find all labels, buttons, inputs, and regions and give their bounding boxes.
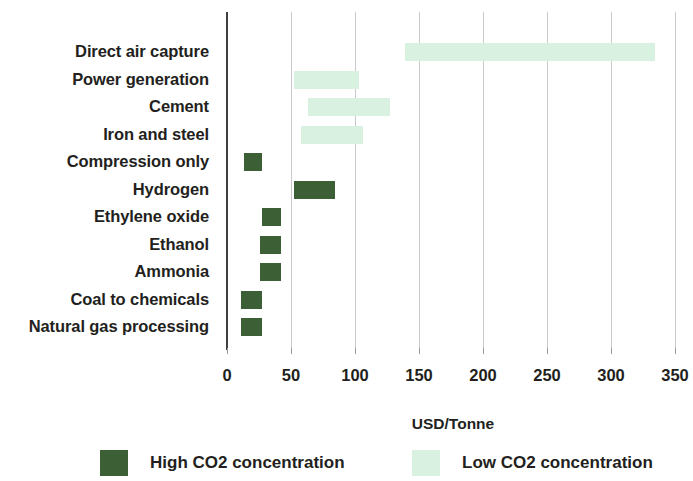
gridline-50 bbox=[291, 12, 292, 348]
bar[interactable] bbox=[244, 153, 262, 171]
category-label: Ethylene oxide bbox=[0, 207, 219, 225]
x-tick-mark-150 bbox=[419, 348, 420, 354]
legend-item-high-concentration[interactable]: High CO2 concentration bbox=[100, 449, 345, 477]
gridline-100 bbox=[355, 12, 356, 348]
chart-legend: High CO2 concentration Low CO2 concentra… bbox=[0, 449, 686, 481]
legend-swatch-low-icon bbox=[412, 450, 440, 476]
x-axis-title: USD/Tonne bbox=[227, 415, 679, 433]
category-label: Natural gas processing bbox=[0, 317, 219, 335]
category-label: Direct air capture bbox=[0, 42, 219, 60]
gridline-250 bbox=[547, 12, 548, 348]
legend-label-low: Low CO2 concentration bbox=[462, 453, 653, 473]
plot-area bbox=[227, 12, 679, 348]
x-tick-mark-0 bbox=[227, 348, 228, 354]
gridline-150 bbox=[419, 12, 420, 348]
x-tick-label-100: 100 bbox=[325, 366, 385, 385]
category-label: Coal to chemicals bbox=[0, 290, 219, 308]
bar[interactable] bbox=[262, 208, 281, 226]
bar[interactable] bbox=[294, 71, 359, 89]
category-label: Ethanol bbox=[0, 235, 219, 253]
bar[interactable] bbox=[308, 98, 390, 116]
bar[interactable] bbox=[260, 263, 280, 281]
x-tick-mark-200 bbox=[483, 348, 484, 354]
category-label: Hydrogen bbox=[0, 180, 219, 198]
gridline-350 bbox=[675, 12, 676, 348]
gridline-200 bbox=[483, 12, 484, 348]
x-tick-label-250: 250 bbox=[517, 366, 577, 385]
bar[interactable] bbox=[241, 318, 261, 336]
x-tick-mark-100 bbox=[355, 348, 356, 354]
x-tick-label-0: 0 bbox=[197, 366, 257, 385]
x-tick-label-300: 300 bbox=[581, 366, 641, 385]
bar[interactable] bbox=[294, 181, 335, 199]
category-label: Ammonia bbox=[0, 262, 219, 280]
bar[interactable] bbox=[405, 43, 655, 61]
category-axis-labels: Direct air capturePower generationCement… bbox=[0, 0, 219, 360]
category-label: Power generation bbox=[0, 70, 219, 88]
x-tick-label-150: 150 bbox=[389, 366, 449, 385]
x-tick-mark-50 bbox=[291, 348, 292, 354]
x-tick-mark-350 bbox=[675, 348, 676, 354]
bar[interactable] bbox=[301, 126, 362, 144]
legend-item-low-concentration[interactable]: Low CO2 concentration bbox=[412, 449, 653, 477]
gridline-300 bbox=[611, 12, 612, 348]
category-label: Iron and steel bbox=[0, 125, 219, 143]
category-label: Compression only bbox=[0, 152, 219, 170]
legend-label-high: High CO2 concentration bbox=[150, 453, 345, 473]
x-tick-label-50: 50 bbox=[261, 366, 321, 385]
bar[interactable] bbox=[260, 236, 280, 254]
x-tick-label-350: 350 bbox=[645, 366, 693, 385]
bar[interactable] bbox=[241, 291, 261, 309]
x-tick-mark-250 bbox=[547, 348, 548, 354]
x-tick-label-200: 200 bbox=[453, 366, 513, 385]
category-label: Cement bbox=[0, 97, 219, 115]
legend-swatch-high-icon bbox=[100, 450, 128, 476]
x-tick-mark-300 bbox=[611, 348, 612, 354]
